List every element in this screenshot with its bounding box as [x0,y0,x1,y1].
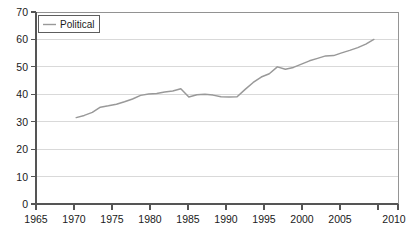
x-axis-ticks [36,204,398,210]
x-tick-label: 1980 [138,213,162,225]
y-axis-ticks [31,12,36,204]
y-tick-label: 70 [16,6,28,18]
y-tick-label: 40 [16,88,28,100]
x-axis-tick-labels: 1965 1970 1975 1980 1985 1990 1995 2000 … [24,213,406,225]
x-tick-label: 2005 [328,213,352,225]
line-chart: 70 60 50 40 30 20 10 0 1965 [0,0,417,233]
y-axis-tick-labels: 70 60 50 40 30 20 10 0 [16,6,28,210]
x-tick-label: 2000 [290,213,314,225]
y-tick-label: 10 [16,171,28,183]
x-tick-label: 1990 [214,213,238,225]
x-tick-label: 1970 [62,213,86,225]
x-tick-label: 1995 [252,213,276,225]
y-tick-label: 20 [16,143,28,155]
y-tick-label: 0 [22,198,28,210]
x-tick-label: 2010 [382,213,406,225]
x-tick-label: 1985 [176,213,200,225]
y-tick-label: 30 [16,116,28,128]
chart-figure: 70 60 50 40 30 20 10 0 1965 [0,0,417,233]
plot-background [36,12,398,204]
y-tick-label: 50 [16,61,28,73]
chart-legend[interactable]: Political [39,16,100,33]
y-tick-label: 60 [16,33,28,45]
x-tick-label: 1975 [100,213,124,225]
legend-label-political: Political [60,19,94,30]
x-tick-label: 1965 [24,213,48,225]
